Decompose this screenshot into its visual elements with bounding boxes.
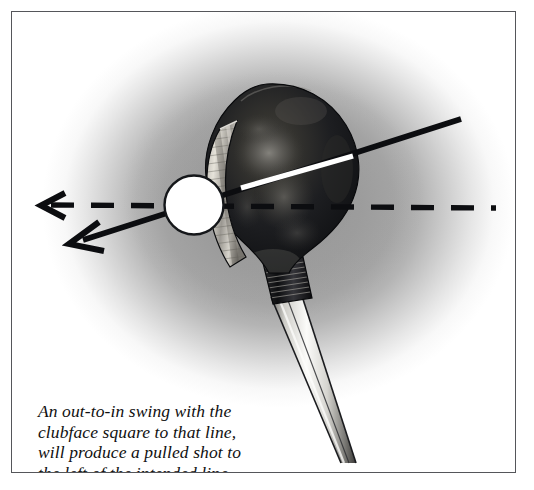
target-line-dashes xyxy=(51,205,496,208)
caption-line-2: clubface square to that line, xyxy=(38,422,288,443)
figure-root: An out-to-in swing with the clubface squ… xyxy=(0,0,534,490)
caption-line-1: An out-to-in swing with the xyxy=(38,401,288,422)
caption-line-3: will produce a pulled shot to xyxy=(38,442,288,463)
caption: An out-to-in swing with the clubface squ… xyxy=(38,401,288,473)
golf-ball-circle xyxy=(165,176,224,235)
caption-line-4: the left of the intended line xyxy=(38,463,288,474)
illustration-frame: An out-to-in swing with the clubface squ… xyxy=(11,11,516,473)
shaft-center-line xyxy=(286,295,349,463)
golf-ball xyxy=(165,176,224,235)
